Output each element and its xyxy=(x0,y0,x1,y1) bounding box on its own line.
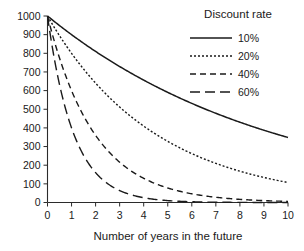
x-axis-title: Number of years in the future xyxy=(94,230,243,242)
x-tick-label: 0 xyxy=(45,209,51,221)
x-tick-label: 7 xyxy=(213,209,219,221)
discount-rate-chart: 01002003004005006007008009001000 0123456… xyxy=(0,0,304,251)
y-tick-label: 400 xyxy=(23,122,41,134)
y-tick-label: 100 xyxy=(23,178,41,190)
y-tick-label: 600 xyxy=(23,84,41,96)
x-tick-label: 2 xyxy=(93,209,99,221)
y-tick-label: 300 xyxy=(23,140,41,152)
y-tick-label: 0 xyxy=(35,196,41,208)
y-tick-label: 800 xyxy=(23,47,41,59)
legend-label-60pct: 60% xyxy=(238,86,259,98)
y-tick-label: 900 xyxy=(23,28,41,40)
legend: Discount rate 10%20%40%60% xyxy=(190,8,272,98)
y-axis-ticks: 01002003004005006007008009001000 xyxy=(17,10,47,209)
x-tick-label: 6 xyxy=(189,209,195,221)
x-axis: 012345678910 Number of years in the futu… xyxy=(45,203,294,243)
x-tick-label: 4 xyxy=(141,209,147,221)
x-tick-label: 8 xyxy=(237,209,243,221)
series-lines xyxy=(48,16,289,202)
chart-canvas: 01002003004005006007008009001000 0123456… xyxy=(0,0,304,251)
x-tick-label: 10 xyxy=(282,209,294,221)
legend-label-10pct: 10% xyxy=(238,32,259,44)
x-tick-label: 9 xyxy=(261,209,267,221)
y-tick-label: 200 xyxy=(23,159,41,171)
x-axis-ticks: 012345678910 xyxy=(45,203,294,221)
y-axis: 01002003004005006007008009001000 xyxy=(17,10,47,209)
x-tick-label: 5 xyxy=(165,209,171,221)
y-tick-label: 500 xyxy=(23,103,41,115)
x-tick-label: 3 xyxy=(117,209,123,221)
y-tick-label: 1000 xyxy=(17,10,41,22)
legend-entries: 10%20%40%60% xyxy=(190,32,259,98)
legend-title: Discount rate xyxy=(204,8,272,20)
y-tick-label: 700 xyxy=(23,66,41,78)
legend-label-40pct: 40% xyxy=(238,68,259,80)
x-tick-label: 1 xyxy=(69,209,75,221)
legend-label-20pct: 20% xyxy=(238,50,259,62)
